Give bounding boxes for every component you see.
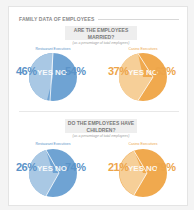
yes-label: YES bbox=[37, 68, 53, 77]
yes-label: YES bbox=[37, 164, 53, 173]
question-children: DO THE EMPLOYEES HAVE CHILDREN? (as a pe… bbox=[65, 119, 137, 133]
group-label: Casino Executives bbox=[113, 142, 173, 146]
no-percentage: 63% bbox=[155, 65, 176, 77]
infographic-card: FAMILY DATA OF EMPLOYEES ARE THE EMPLOYE… bbox=[8, 6, 188, 206]
no-percentage: 74% bbox=[65, 161, 86, 173]
yes-label: YES bbox=[128, 68, 144, 77]
section-divider bbox=[19, 111, 179, 112]
group-label: Casino Executives bbox=[113, 47, 173, 51]
group-label: Restaurant Executives bbox=[23, 47, 83, 51]
no-percentage: 54% bbox=[65, 65, 86, 77]
question-text: DO THE EMPLOYEES HAVE CHILDREN? bbox=[65, 120, 137, 134]
yes-percentage: 21% bbox=[108, 161, 129, 173]
pie-chart-children-restaurant bbox=[28, 148, 78, 198]
question-married: ARE THE EMPLOYEES MARRIED? (as a percent… bbox=[65, 26, 137, 40]
yes-percentage: 46% bbox=[16, 65, 37, 77]
yes-label: YES bbox=[128, 164, 144, 173]
pie-chart-married-casino bbox=[118, 52, 168, 102]
pie-chart-children-casino bbox=[118, 148, 168, 198]
question-subtitle: (as a percentage of total employees) bbox=[65, 41, 137, 46]
question-subtitle: (as a percentage of total employees) bbox=[65, 134, 137, 139]
yes-percentage: 26% bbox=[16, 161, 37, 173]
page-title: FAMILY DATA OF EMPLOYEES bbox=[19, 16, 94, 22]
group-label: Restaurant Executives bbox=[23, 142, 83, 146]
title-row: FAMILY DATA OF EMPLOYEES bbox=[19, 15, 179, 23]
question-text: ARE THE EMPLOYEES MARRIED? bbox=[65, 27, 137, 41]
pie-chart-married-restaurant bbox=[28, 52, 78, 102]
no-percentage: 79% bbox=[155, 161, 176, 173]
yes-percentage: 37% bbox=[108, 65, 129, 77]
title-rule bbox=[98, 19, 179, 20]
